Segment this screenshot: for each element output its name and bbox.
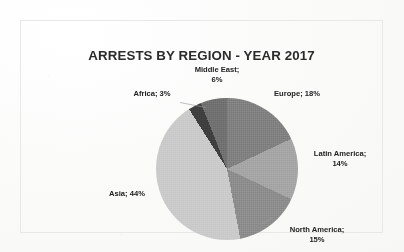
slice-label-middle-east-line2: 6% xyxy=(174,75,260,85)
slice-label-north-america-line2: 15% xyxy=(268,235,366,245)
slice-label-middle-east-line1: Middle East; xyxy=(174,65,260,75)
pie-chart xyxy=(156,98,298,240)
slice-label-middle-east: Middle East; 6% xyxy=(174,65,260,85)
slice-label-europe-line1: Europe; 18% xyxy=(257,89,337,99)
slice-label-asia: Asia; 44% xyxy=(95,189,159,199)
chart-title: ARRESTS BY REGION - YEAR 2017 xyxy=(21,48,382,63)
slice-label-africa: Africa; 3% xyxy=(122,89,182,99)
slice-label-north-america-line1: North America; xyxy=(268,225,366,235)
slice-label-africa-line1: Africa; 3% xyxy=(122,89,182,99)
scanned-page: ARRESTS BY REGION - YEAR 2017 Middle Eas… xyxy=(0,0,404,252)
pie-slices xyxy=(156,98,298,240)
slice-label-latin-america-line1: Latin America; xyxy=(294,149,386,159)
chart-frame: ARRESTS BY REGION - YEAR 2017 Middle Eas… xyxy=(20,20,383,233)
slice-label-latin-america: Latin America; 14% xyxy=(294,149,386,169)
slice-label-asia-line1: Asia; 44% xyxy=(95,189,159,199)
slice-label-latin-america-line2: 14% xyxy=(294,159,386,169)
slice-label-north-america: North America; 15% xyxy=(268,225,366,245)
slice-label-europe: Europe; 18% xyxy=(257,89,337,99)
